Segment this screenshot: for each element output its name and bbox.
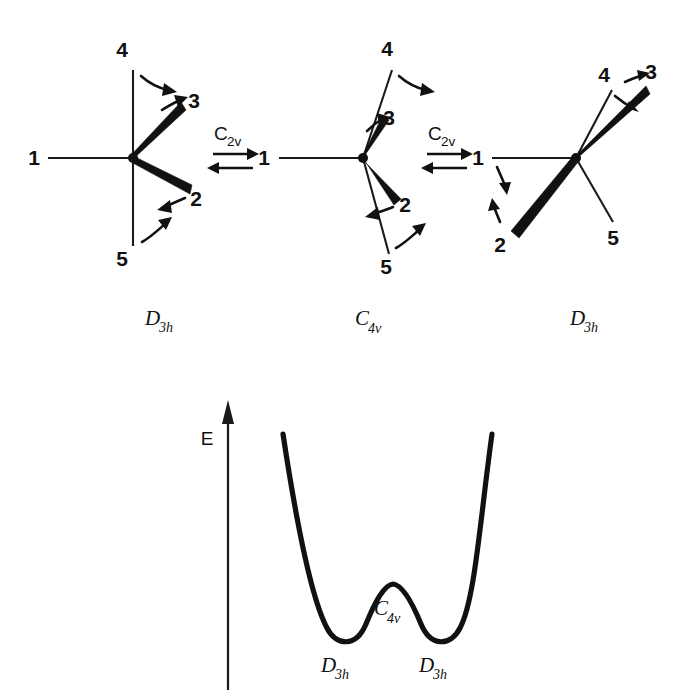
- atom-label-middle-3: 3: [383, 106, 395, 129]
- central-atom-middle: [358, 153, 368, 163]
- curve-label-left-well-base: D: [320, 653, 336, 677]
- reversible-arrow-left-icon: [207, 148, 259, 174]
- bond-right-2-wedge: [511, 155, 578, 238]
- central-atom-right: [571, 153, 581, 163]
- bond-left-2-wedge: [131, 155, 192, 194]
- equilibrium-right-label: C: [428, 123, 442, 144]
- motion-arrow-right-1: [497, 167, 511, 195]
- berry-pseudorotation-figure: 1 2 3 4 5 C 2v: [0, 0, 698, 696]
- energy-diagram: E D 3h C 4v D 3h: [201, 400, 492, 690]
- motion-arrow-left-2: [157, 198, 185, 213]
- bond-left-3-wedge: [131, 102, 186, 161]
- curve-label-left-well: D 3h: [320, 653, 349, 682]
- atom-label-right-2: 2: [494, 233, 506, 256]
- caption-middle: C 4v: [355, 306, 382, 336]
- caption-right-base: D: [569, 306, 585, 330]
- atom-label-right-3: 3: [645, 60, 657, 83]
- energy-axis-label: E: [201, 428, 214, 449]
- atom-label-right-5: 5: [607, 226, 619, 249]
- motion-arrow-middle-4: [399, 76, 435, 96]
- equilibrium-left: C 2v: [207, 123, 259, 174]
- motion-arrow-left-4: [141, 76, 177, 96]
- curve-label-barrier: C 4v: [374, 596, 401, 626]
- curve-label-right-well: D 3h: [418, 653, 447, 682]
- atom-label-right-1: 1: [472, 146, 484, 169]
- atom-label-left-1: 1: [28, 146, 40, 169]
- point-group-captions: D 3h C 4v D 3h: [144, 306, 598, 336]
- caption-left-base: D: [144, 306, 160, 330]
- equilibrium-right: C 2v: [421, 123, 473, 174]
- motion-arrow-middle-2: [365, 207, 393, 220]
- caption-left-sub: 3h: [158, 320, 173, 335]
- motion-arrow-right-2: [488, 198, 500, 222]
- equilibrium-left-label: C: [214, 123, 228, 144]
- structure-right: 1 2 3 4 5: [472, 60, 657, 256]
- curve-label-barrier-sub: 4v: [387, 611, 401, 626]
- equilibrium-right-sublabel: 2v: [441, 134, 456, 149]
- curve-label-right-well-sub: 3h: [432, 667, 447, 682]
- central-atom-left: [128, 153, 138, 163]
- atom-label-middle-5: 5: [380, 255, 392, 278]
- energy-axis-arrowhead-icon: [222, 400, 234, 424]
- bond-middle-2-wedge: [361, 155, 401, 205]
- structure-middle: 1 2 3 4 5: [258, 37, 435, 278]
- figure-canvas: 1 2 3 4 5 C 2v: [0, 0, 698, 696]
- motion-arrow-left-5: [142, 217, 172, 242]
- bond-right-5: [576, 158, 613, 222]
- equilibrium-left-sublabel: 2v: [227, 134, 242, 149]
- bond-right-4: [576, 90, 612, 158]
- energy-axis: [222, 400, 234, 690]
- bond-right-3-wedge: [574, 86, 650, 161]
- caption-left: D 3h: [144, 306, 173, 335]
- caption-right: D 3h: [569, 306, 598, 335]
- caption-middle-sub: 4v: [368, 321, 382, 336]
- atom-label-left-5: 5: [116, 247, 128, 270]
- atom-label-left-4: 4: [116, 38, 128, 61]
- atom-label-middle-2: 2: [399, 193, 411, 216]
- caption-right-sub: 3h: [583, 320, 598, 335]
- bond-middle-5: [363, 158, 389, 254]
- reversible-arrow-right-icon: [421, 148, 473, 174]
- motion-arrow-middle-5: [396, 223, 426, 248]
- atom-label-left-2: 2: [190, 187, 202, 210]
- atom-label-middle-1: 1: [258, 146, 270, 169]
- curve-label-left-well-sub: 3h: [334, 667, 349, 682]
- atom-label-right-4: 4: [598, 63, 610, 86]
- structure-left: 1 2 3 4 5: [28, 38, 202, 270]
- atom-label-left-3: 3: [188, 89, 200, 112]
- atom-label-middle-4: 4: [381, 37, 393, 60]
- curve-label-right-well-base: D: [418, 653, 434, 677]
